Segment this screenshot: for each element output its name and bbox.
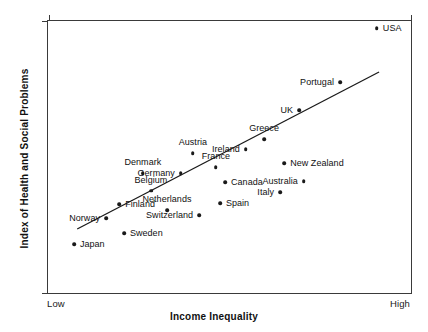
- data-point-label: New Zealand: [290, 158, 344, 168]
- x-axis-tick-left: [49, 15, 50, 21]
- y-axis-title: Index of Health and Social Problems: [19, 34, 30, 284]
- data-point: [197, 213, 201, 217]
- data-point-label: Canada: [231, 177, 263, 187]
- data-point-label: Ireland: [212, 144, 240, 154]
- data-point: [223, 180, 227, 184]
- data-point-label: Norway: [69, 213, 100, 223]
- plot-area: JapanNorwaySwedenFinlandBelgiumDenmarkNe…: [47, 20, 412, 294]
- data-point-label: Italy: [257, 187, 274, 197]
- x-axis-left-label: Low: [47, 298, 65, 309]
- data-point: [244, 147, 248, 151]
- data-point-label: Switzerland: [146, 210, 193, 220]
- data-point: [302, 179, 306, 183]
- data-point: [338, 80, 342, 84]
- data-point: [282, 161, 286, 165]
- x-axis-right-label: High: [390, 298, 410, 309]
- data-point: [262, 137, 266, 141]
- data-point: [191, 151, 195, 155]
- scatter-plot-figure: Worse Better Low High Income Inequality …: [0, 0, 428, 332]
- data-point: [122, 231, 126, 235]
- data-point-label: Japan: [80, 239, 105, 249]
- data-point-label: Greece: [249, 123, 279, 133]
- data-point: [214, 165, 218, 169]
- data-point-label: Austria: [179, 137, 207, 147]
- y-axis-tick-top: [42, 21, 48, 22]
- data-point: [117, 202, 121, 206]
- data-point-label: Denmark: [124, 157, 161, 167]
- data-point: [278, 190, 282, 194]
- data-point: [297, 108, 301, 112]
- data-point-label: USA: [383, 23, 402, 33]
- data-point: [218, 201, 222, 205]
- data-point: [72, 242, 76, 246]
- data-point: [149, 189, 153, 193]
- data-point-label: Germany: [137, 168, 174, 178]
- y-axis-tick-bottom: [42, 293, 48, 294]
- data-point-label: Sweden: [130, 228, 163, 238]
- data-point-label: Spain: [226, 198, 249, 208]
- data-point: [375, 26, 379, 30]
- data-point-label: Portugal: [300, 77, 334, 87]
- data-point-label: Netherlands: [142, 194, 191, 204]
- x-axis-tick-right: [411, 15, 412, 21]
- x-axis-title: Income Inequality: [0, 311, 428, 322]
- data-point-label: Australia: [262, 176, 297, 186]
- data-point: [179, 171, 183, 175]
- data-point-label: UK: [281, 105, 294, 115]
- trend-line: [48, 21, 413, 295]
- data-point: [104, 216, 108, 220]
